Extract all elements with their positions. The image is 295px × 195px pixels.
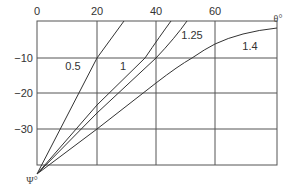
curve-1	[37, 21, 171, 174]
x-tick-20: 20	[91, 5, 103, 17]
curve-label-0-5: 0.5	[65, 60, 80, 72]
curve-1-4	[37, 28, 277, 174]
curve-1-25	[37, 21, 187, 174]
y-tick-minus-10: −10	[14, 52, 33, 64]
curve-0-5	[37, 21, 124, 174]
curve-label-1: 1	[120, 60, 126, 72]
grid	[37, 21, 277, 165]
curve-label-1-25: 1.25	[181, 29, 202, 41]
y-tick-minus-30: −30	[14, 123, 33, 135]
curve-label-1-4: 1.4	[242, 40, 257, 52]
y-tick-minus-20: −20	[14, 87, 33, 99]
x-tick-0: 0	[34, 5, 40, 17]
x-axis-label: θ°	[274, 13, 283, 24]
chart: 0 20 40 60 θ° −10 −20 −30 Ψ° 0.5 1 1.25 …	[0, 0, 295, 195]
x-tick-60: 60	[209, 5, 221, 17]
curves	[37, 21, 277, 174]
y-axis-label: Ψ°	[26, 175, 37, 186]
x-tick-40: 40	[150, 5, 162, 17]
